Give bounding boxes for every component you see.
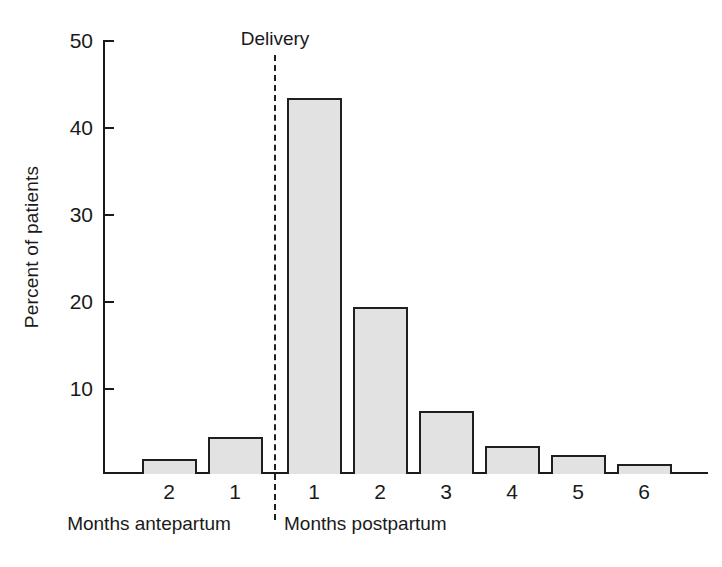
y-axis-tick-label-20: 20 xyxy=(47,291,93,312)
bar-postpartum-6 xyxy=(617,464,672,474)
y-axis-tick-30 xyxy=(103,214,114,216)
x-axis-tick-label-postpartum-4: 4 xyxy=(489,480,535,504)
bar-chart-figure: Percent of patients 50 40 30 20 10 2 1 1… xyxy=(0,0,722,567)
y-axis-title: Percent of patients xyxy=(21,97,43,397)
group-caption-antepartum: Months antepartum xyxy=(30,513,268,535)
y-axis-tick-label-40: 40 xyxy=(47,117,93,138)
bar-antepartum-1 xyxy=(208,437,263,474)
bar-postpartum-4 xyxy=(485,446,540,474)
y-axis-tick-label-10: 10 xyxy=(47,378,93,399)
y-axis-tick-40 xyxy=(103,127,114,129)
bar-postpartum-1 xyxy=(287,98,342,474)
y-axis-tick-20 xyxy=(103,301,114,303)
x-axis-tick-label-postpartum-5: 5 xyxy=(555,480,601,504)
y-axis-tick-50 xyxy=(103,40,114,42)
x-axis-tick-label-postpartum-6: 6 xyxy=(621,480,667,504)
x-axis-tick-label-postpartum-2: 2 xyxy=(357,480,403,504)
delivery-divider-line xyxy=(274,55,276,520)
y-axis-tick-label-50: 50 xyxy=(47,30,93,51)
bar-postpartum-3 xyxy=(419,411,474,474)
group-caption-postpartum: Months postpartum xyxy=(284,513,536,535)
x-axis-tick-label-postpartum-3: 3 xyxy=(423,480,469,504)
y-axis-tick-label-30: 30 xyxy=(47,204,93,225)
bar-postpartum-2 xyxy=(353,307,408,474)
y-axis-tick-10 xyxy=(103,388,114,390)
x-axis-tick-label-antepartum-2: 2 xyxy=(146,480,192,504)
bar-postpartum-5 xyxy=(551,455,606,474)
bar-antepartum-2 xyxy=(142,459,197,474)
y-axis-line xyxy=(103,40,105,474)
x-axis-tick-label-antepartum-1: 1 xyxy=(212,480,258,504)
delivery-annotation-label: Delivery xyxy=(212,28,338,49)
x-axis-tick-label-postpartum-1: 1 xyxy=(291,480,337,504)
